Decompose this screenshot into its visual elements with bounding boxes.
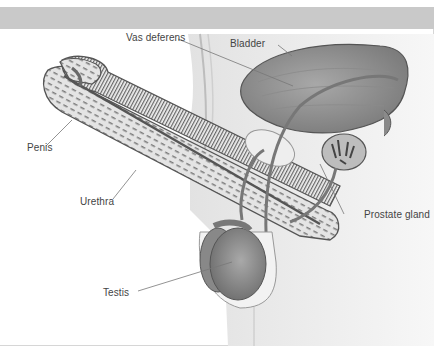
label-bladder: Bladder <box>230 38 265 49</box>
label-vas-deferens: Vas deferens <box>126 32 185 43</box>
label-prostate-gland: Prostate gland <box>364 209 430 220</box>
prostate-shape <box>322 134 366 170</box>
testis-shape <box>199 223 276 308</box>
label-urethra: Urethra <box>80 196 114 207</box>
label-penis: Penis <box>27 142 53 153</box>
label-testis: Testis <box>103 287 129 298</box>
anatomy-illustration <box>0 0 448 359</box>
